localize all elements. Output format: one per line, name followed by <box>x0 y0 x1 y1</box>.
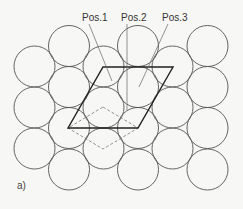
sphere-circle <box>187 149 228 190</box>
leader-line-pos3 <box>139 24 168 87</box>
sphere-circle <box>187 26 228 67</box>
sphere-circle <box>118 67 159 108</box>
figure-caption: a) <box>17 180 26 191</box>
sphere-circle <box>118 26 159 67</box>
sphere-circle <box>187 67 228 108</box>
label-pos1: Pos.1 <box>82 12 108 23</box>
sphere-circle <box>14 128 55 169</box>
sphere-circle <box>14 46 55 87</box>
label-pos2: Pos.2 <box>121 12 147 23</box>
sphere-circle <box>152 128 193 169</box>
label-pos3: Pos.3 <box>162 12 188 23</box>
sphere-layer <box>14 26 228 191</box>
sphere-circle <box>118 149 159 190</box>
packing-diagram: Pos.1 Pos.2 Pos.3 a) <box>0 0 243 209</box>
sphere-circle <box>187 108 228 149</box>
sphere-circle <box>14 87 55 128</box>
sphere-circle <box>49 149 90 190</box>
sphere-circle <box>49 26 90 67</box>
